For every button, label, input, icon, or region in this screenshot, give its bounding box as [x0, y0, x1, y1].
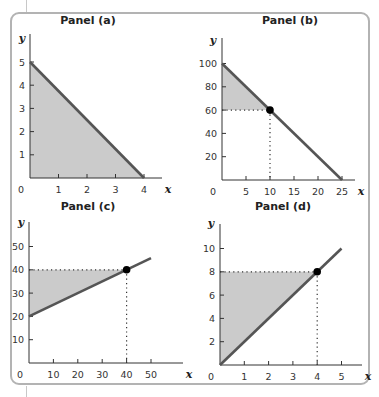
panel-a: 1234123450Panel (a)yx [18, 14, 172, 196]
y-axis-label: y [207, 217, 216, 230]
y-tick-label: 10 [203, 243, 215, 254]
x-tick-label: 1 [241, 371, 247, 382]
y-tick-label: 2 [209, 336, 215, 347]
y-tick-label: 2 [19, 126, 25, 137]
y-tick-label: 10 [12, 334, 24, 345]
figure-canvas: 1234123450Panel (a)yx 510152025204060801… [0, 0, 379, 397]
y-tick-label: 100 [199, 58, 217, 69]
y-tick-label: 80 [205, 81, 217, 92]
x-tick-label: 2 [266, 371, 272, 382]
x-tick-label: 25 [336, 186, 348, 197]
x-tick-label: 4 [141, 184, 147, 195]
panel-title: Panel (b) [262, 14, 318, 27]
x-tick-label: 30 [96, 369, 108, 380]
origin-label: 0 [18, 184, 24, 195]
origin-label: 0 [17, 369, 23, 380]
x-tick-label: 20 [312, 186, 324, 197]
y-tick-label: 3 [19, 103, 25, 114]
y-axis-label: y [209, 34, 218, 47]
origin-label: 0 [208, 371, 214, 382]
highlight-point [266, 106, 274, 114]
y-tick-label: 5 [19, 57, 25, 68]
y-tick-label: 1 [19, 149, 25, 160]
panel-title: Panel (a) [60, 14, 116, 27]
origin-label: 0 [210, 186, 216, 197]
highlight-point [123, 266, 131, 274]
y-axis-label: y [18, 32, 27, 45]
y-tick-label: 20 [205, 151, 217, 162]
x-tick-label: 10 [47, 369, 59, 380]
panel-d: 123452468100Panel (d)yx [203, 200, 372, 383]
x-tick-label: 3 [290, 371, 296, 382]
x-tick-label: 50 [145, 369, 157, 380]
x-axis-label: x [364, 370, 372, 383]
x-tick-label: 1 [55, 184, 61, 195]
y-tick-label: 6 [209, 290, 215, 301]
panel-title: Panel (c) [61, 200, 116, 213]
y-tick-label: 30 [12, 288, 24, 299]
x-tick-label: 5 [338, 371, 344, 382]
y-tick-label: 4 [209, 313, 215, 324]
x-tick-label: 40 [121, 369, 133, 380]
x-tick-label: 20 [72, 369, 84, 380]
panel-c: 102030405010203040500Panel (c)yx [12, 200, 193, 381]
x-tick-label: 5 [243, 186, 249, 197]
x-tick-label: 10 [264, 186, 276, 197]
x-axis-label: x [164, 183, 172, 196]
y-axis-label: y [17, 216, 26, 229]
data-line [222, 64, 342, 181]
x-tick-label: 15 [288, 186, 300, 197]
y-tick-label: 60 [205, 105, 217, 116]
y-tick-label: 50 [12, 241, 24, 252]
x-tick-label: 4 [314, 371, 320, 382]
x-tick-label: 2 [84, 184, 90, 195]
y-tick-label: 4 [19, 80, 25, 91]
panel-title: Panel (d) [255, 200, 311, 213]
x-tick-label: 3 [112, 184, 118, 195]
y-tick-label: 40 [12, 264, 24, 275]
panel-b: 510152025204060801000Panel (b)yx [199, 14, 365, 198]
x-axis-label: x [357, 185, 365, 198]
y-tick-label: 20 [12, 311, 24, 322]
y-tick-label: 40 [205, 128, 217, 139]
highlight-point [313, 268, 321, 276]
x-axis-label: x [185, 368, 193, 381]
y-tick-label: 8 [209, 266, 215, 277]
